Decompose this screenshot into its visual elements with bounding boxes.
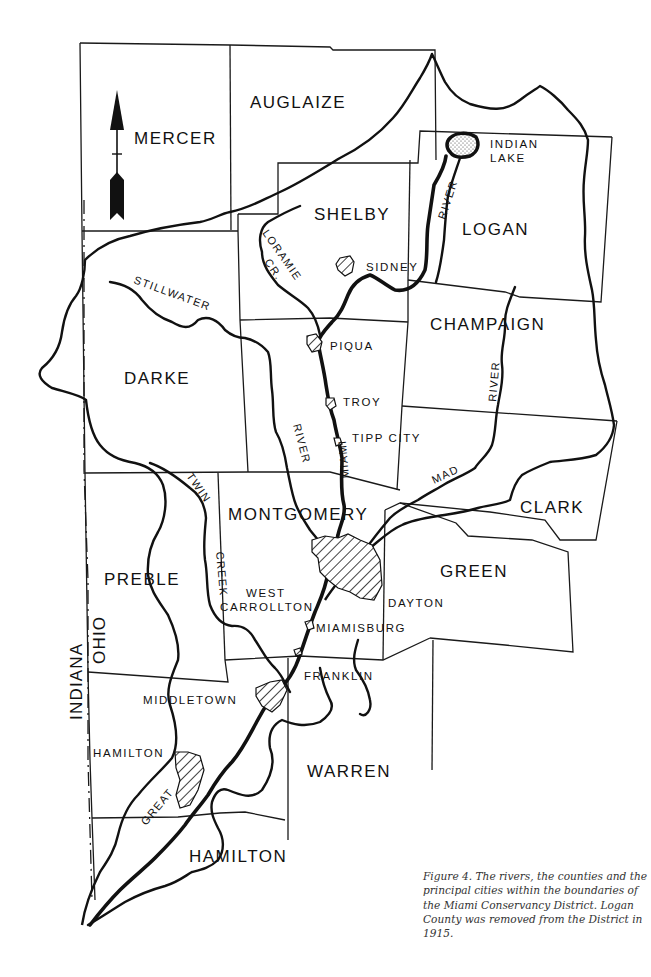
miami-conservancy-district-map: MERCER AUGLAIZE SHELBY LOGAN CHAMPAIGN D… bbox=[0, 0, 651, 977]
label-west-carrollton-2: CARROLLTON bbox=[220, 601, 314, 613]
label-stillwater: STILLWATER bbox=[132, 274, 212, 313]
district-boundary bbox=[40, 54, 614, 925]
label-miami: MIAMI bbox=[336, 439, 351, 479]
label-upper-river: RIVER bbox=[435, 178, 459, 220]
label-logan: LOGAN bbox=[462, 220, 529, 239]
label-indiana: INDIANA bbox=[67, 643, 86, 720]
figure-caption: Figure 4. The rivers, the counties and t… bbox=[423, 869, 648, 940]
label-indian-lake-2: LAKE bbox=[490, 152, 526, 164]
label-green: GREEN bbox=[440, 562, 508, 581]
city-middletown bbox=[256, 680, 287, 712]
indian-lake bbox=[447, 133, 478, 157]
label-montgomery: MONTGOMERY bbox=[228, 505, 368, 524]
label-hamilton-county: HAMILTON bbox=[189, 847, 287, 866]
label-middletown: MIDDLETOWN bbox=[143, 694, 237, 706]
label-troy: TROY bbox=[343, 396, 381, 408]
label-stillwater-river: RIVER bbox=[291, 422, 313, 464]
label-mercer: MERCER bbox=[134, 129, 217, 148]
city-troy bbox=[326, 398, 336, 410]
north-arrow-icon bbox=[110, 90, 124, 220]
label-sidney: SIDNEY bbox=[366, 261, 418, 273]
label-great: GREAT bbox=[138, 786, 176, 827]
label-warren: WARREN bbox=[307, 762, 391, 781]
label-west-carrollton-1: WEST bbox=[246, 587, 286, 599]
label-preble: PREBLE bbox=[104, 570, 180, 589]
city-miamisburg bbox=[305, 620, 314, 630]
label-miamisburg: MIAMISBURG bbox=[316, 622, 406, 634]
label-champaign: CHAMPAIGN bbox=[430, 315, 545, 334]
city-sidney bbox=[336, 256, 354, 276]
label-creek: CREEK bbox=[214, 551, 230, 597]
city-hamilton bbox=[175, 752, 204, 808]
cities bbox=[175, 256, 382, 808]
label-mad: MAD bbox=[430, 463, 461, 486]
label-franklin: FRANKLIN bbox=[304, 670, 374, 682]
label-auglaize: AUGLAIZE bbox=[250, 93, 346, 112]
label-tipp-city: TIPP CITY bbox=[352, 432, 421, 444]
label-indian-lake-1: INDIAN bbox=[490, 138, 539, 150]
label-dayton: DAYTON bbox=[388, 597, 444, 609]
city-franklin bbox=[294, 648, 302, 656]
label-hamilton-city: HAMILTON bbox=[93, 747, 164, 759]
label-clark: CLARK bbox=[520, 498, 584, 517]
label-ohio: OHIO bbox=[90, 616, 109, 664]
label-darke: DARKE bbox=[124, 369, 190, 388]
label-piqua: PIQUA bbox=[330, 340, 374, 352]
label-shelby: SHELBY bbox=[314, 205, 390, 224]
